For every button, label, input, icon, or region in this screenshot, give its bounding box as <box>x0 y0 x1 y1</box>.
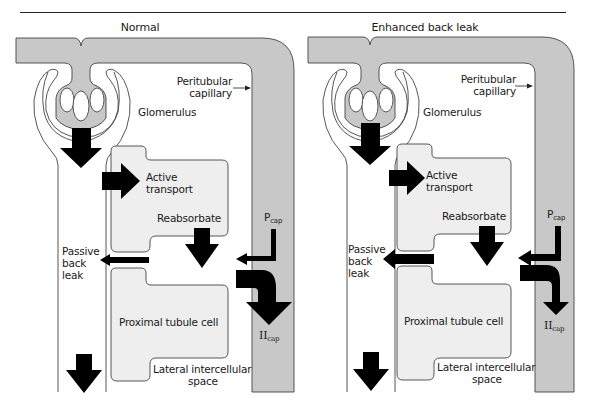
p-cap-label: Pcap <box>547 208 565 224</box>
tubular-flow-arrow <box>66 354 102 393</box>
active-transport-label-line1: Active <box>426 169 457 181</box>
glomerulus-label: Glomerulus <box>138 106 196 118</box>
lateral-space-label-line1: Lateral intercellular <box>153 363 251 375</box>
glomerular-loop-center <box>362 91 378 121</box>
peritubular-label-line2: capillary <box>170 87 232 99</box>
passive-label-line1: Passive <box>348 243 385 255</box>
reabsorbate-label: Reabsorbate <box>157 212 221 224</box>
lateral-space-label-line2: space <box>472 373 502 385</box>
filtration-arrow <box>60 128 102 168</box>
glomerular-loop-center <box>73 91 89 121</box>
p-cap-label: Pcap <box>264 211 282 227</box>
pi-cap-subscript: cap <box>267 335 279 343</box>
glomerulus-label: Glomerulus <box>423 106 481 118</box>
passive-label-line3: leak <box>348 267 369 279</box>
pi-cap-subscript: cap <box>552 325 564 333</box>
panel-title: Enhanced back leak <box>370 22 480 34</box>
diagram-canvas <box>0 0 594 413</box>
lateral-space-label-line1: Lateral intercellular <box>437 361 535 373</box>
pi-cap-label: IIcap <box>259 330 279 345</box>
passive-label-line2: back <box>62 257 86 269</box>
glomerular-loop-right <box>379 88 393 112</box>
peritubular-label-line1: Peritubular <box>170 75 232 87</box>
active-transport-label-line1: Active <box>146 171 177 183</box>
tubular-flow-arrow <box>353 352 389 391</box>
proximal-cell-label: Proximal tubule cell <box>119 316 218 328</box>
panel-normal <box>16 38 294 393</box>
pointer-arrowhead-icon <box>527 84 533 89</box>
filtration-arrow <box>349 123 391 165</box>
panel-enhanced-back-leak <box>308 37 574 392</box>
lateral-space-label-line2: space <box>188 375 218 387</box>
pi-cap-label: IIcap <box>544 320 564 335</box>
p-cap-subscript: cap <box>270 217 282 225</box>
proximal-cell-label: Proximal tubule cell <box>404 315 503 327</box>
active-transport-label-line2: transport <box>426 181 473 193</box>
active-transport-label-line2: transport <box>146 183 193 195</box>
glomerular-loop-left <box>349 88 363 112</box>
passive-label-line3: leak <box>62 269 83 281</box>
passive-label-line2: back <box>348 255 372 267</box>
pointer-arrowhead-icon <box>245 86 251 91</box>
peritubular-label-line2: capillary <box>454 85 516 97</box>
p-cap-subscript: cap <box>553 214 565 222</box>
reabsorbate-label: Reabsorbate <box>442 210 506 222</box>
glomerular-loop-right <box>90 88 104 112</box>
glomerular-loop-left <box>60 88 74 112</box>
upper-proximal-cell <box>111 146 228 252</box>
passive-back-leak-arrow <box>100 254 149 266</box>
panel-title: Normal <box>110 22 170 34</box>
passive-label-line1: Passive <box>62 245 99 257</box>
peritubular-label-line1: Peritubular <box>454 73 516 85</box>
